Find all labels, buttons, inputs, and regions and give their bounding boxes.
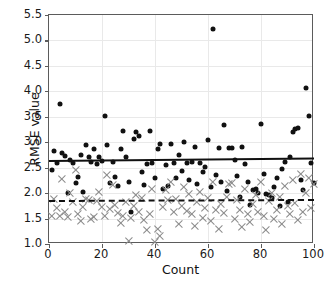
data-point-cross — [245, 217, 255, 227]
data-point-dot — [259, 121, 264, 126]
data-point-cross — [147, 184, 157, 194]
data-point-cross — [94, 187, 104, 197]
y-tick-mark — [45, 66, 49, 67]
data-point-cross — [208, 177, 218, 187]
data-point-cross — [137, 193, 147, 203]
data-point-cross — [227, 178, 237, 188]
data-point-cross — [240, 184, 250, 194]
y-tick-label: 2.0 — [0, 185, 42, 199]
data-point-cross — [272, 205, 282, 215]
data-point-cross — [214, 224, 224, 234]
data-point-cross — [309, 179, 319, 189]
x-tick-label: 60 — [200, 247, 215, 261]
data-point-dot — [200, 169, 205, 174]
data-point-dot — [163, 162, 168, 167]
data-point-dot — [158, 142, 163, 147]
data-point-dot — [280, 166, 285, 171]
data-point-dot — [198, 160, 203, 165]
data-point-dot — [240, 145, 245, 150]
data-point-cross — [57, 174, 67, 184]
y-tick-mark — [45, 15, 49, 16]
data-point-cross — [301, 188, 311, 198]
data-point-dot — [168, 142, 173, 147]
data-point-dot — [94, 161, 99, 166]
data-point-dot — [118, 147, 123, 152]
data-point-dot — [304, 86, 309, 91]
y-tick-mark — [45, 91, 49, 92]
data-point-dot — [145, 161, 150, 166]
data-point-dot — [147, 128, 152, 133]
gridline-horizontal — [49, 66, 312, 67]
data-point-dot — [92, 147, 97, 152]
data-point-dot — [221, 122, 226, 127]
data-point-dot — [274, 175, 279, 180]
data-point-dot — [306, 113, 311, 118]
y-tick-label: 4.5 — [0, 58, 42, 72]
scatter-chart-figure: RMSE value 1.01.52.02.53.03.54.04.55.05.… — [0, 0, 330, 286]
data-point-dot — [309, 160, 314, 165]
data-point-dot — [52, 149, 57, 154]
data-point-cross — [145, 209, 155, 219]
y-tick-label: 1.0 — [0, 236, 42, 250]
y-tick-mark — [45, 219, 49, 220]
data-point-dot — [182, 140, 187, 145]
gridline-horizontal — [49, 142, 312, 143]
data-point-cross — [219, 208, 229, 218]
data-point-dot — [206, 138, 211, 143]
x-tick-label: 40 — [147, 247, 162, 261]
data-point-dot — [203, 164, 208, 169]
data-point-dot — [121, 129, 126, 134]
gridline-horizontal — [49, 40, 312, 41]
data-point-cross — [259, 211, 269, 221]
y-tick-mark — [45, 193, 49, 194]
data-point-dot — [229, 146, 234, 151]
data-point-dot — [153, 175, 158, 180]
data-point-dot — [126, 179, 131, 184]
data-point-dot — [102, 113, 107, 118]
data-point-dot — [243, 161, 248, 166]
data-point-cross — [155, 231, 165, 241]
data-point-dot — [57, 101, 62, 106]
data-point-dot — [179, 168, 184, 173]
data-point-cross — [102, 170, 112, 180]
data-point-cross — [187, 209, 197, 219]
data-point-cross — [200, 203, 210, 213]
y-tick-label: 1.5 — [0, 211, 42, 225]
data-point-dot — [113, 174, 118, 179]
data-point-dot — [195, 181, 200, 186]
data-point-dot — [62, 154, 67, 159]
y-axis-label: RMSE value — [27, 92, 42, 165]
gridline-vertical — [155, 15, 156, 242]
x-axis-label: Count — [48, 262, 313, 277]
data-point-cross — [306, 203, 316, 213]
y-tick-label: 5.5 — [0, 7, 42, 21]
data-point-dot — [73, 180, 78, 185]
data-point-dot — [176, 153, 181, 158]
y-tick-mark — [45, 117, 49, 118]
data-point-cross — [203, 193, 213, 203]
data-point-cross — [71, 165, 81, 175]
x-tick-label: 80 — [253, 247, 268, 261]
gridline-horizontal — [49, 91, 312, 92]
x-tick-label: 20 — [94, 247, 109, 261]
data-point-cross — [256, 177, 266, 187]
data-point-cross — [63, 212, 73, 222]
data-point-cross — [261, 225, 271, 235]
y-tick-mark — [45, 40, 49, 41]
data-point-dot — [192, 145, 197, 150]
data-point-cross — [166, 177, 176, 187]
data-point-dot — [216, 146, 221, 151]
data-point-dot — [139, 169, 144, 174]
x-tick-label: 100 — [302, 247, 324, 261]
y-tick-label: 5.0 — [0, 32, 42, 46]
y-tick-label: 3.0 — [0, 134, 42, 148]
data-point-cross — [68, 197, 78, 207]
data-point-cross — [174, 219, 184, 229]
data-point-dot — [105, 143, 110, 148]
data-point-dot — [131, 137, 136, 142]
x-tick-label: 0 — [44, 247, 51, 261]
data-point-cross — [142, 225, 152, 235]
data-point-cross — [277, 219, 287, 229]
plot-area — [48, 14, 313, 243]
data-point-dot — [49, 168, 54, 173]
